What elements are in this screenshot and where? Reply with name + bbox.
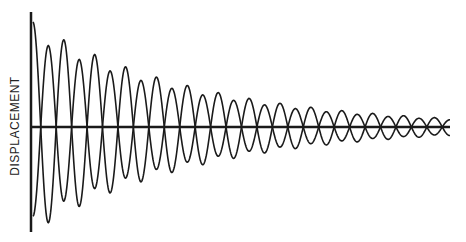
y-axis-label: DISPLACEMENT xyxy=(8,76,22,175)
damped-oscillation-diagram xyxy=(0,0,466,242)
oscillation-curve-2 xyxy=(33,46,450,217)
oscillation-curves xyxy=(33,22,450,223)
oscillation-curve-1 xyxy=(33,22,450,223)
